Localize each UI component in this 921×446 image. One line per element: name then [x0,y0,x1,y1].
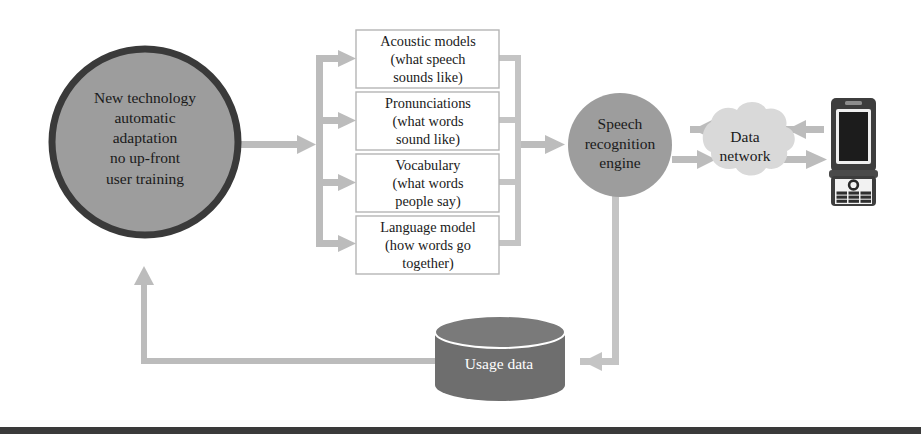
models-distribution-trunk [316,50,356,252]
speech-recognition-engine [568,93,672,197]
new-technology-circle [52,49,238,235]
circle-to-models-arrow [241,135,316,154]
mobile-phone-device [829,98,878,206]
data-network-cloud [703,102,795,176]
models-to-engine-arrow [499,55,565,246]
diagram-vector-layer [0,0,921,446]
usage-data-store [435,316,565,401]
diagram-canvas: New technology automatic adaptation no u… [0,0,921,446]
model-boxes-group [356,30,499,274]
usage-to-circle-arrow [134,266,437,364]
bottom-divider-rule [0,427,921,434]
engine-to-network-arrow [672,150,716,169]
engine-to-usage-arrow [580,190,619,371]
